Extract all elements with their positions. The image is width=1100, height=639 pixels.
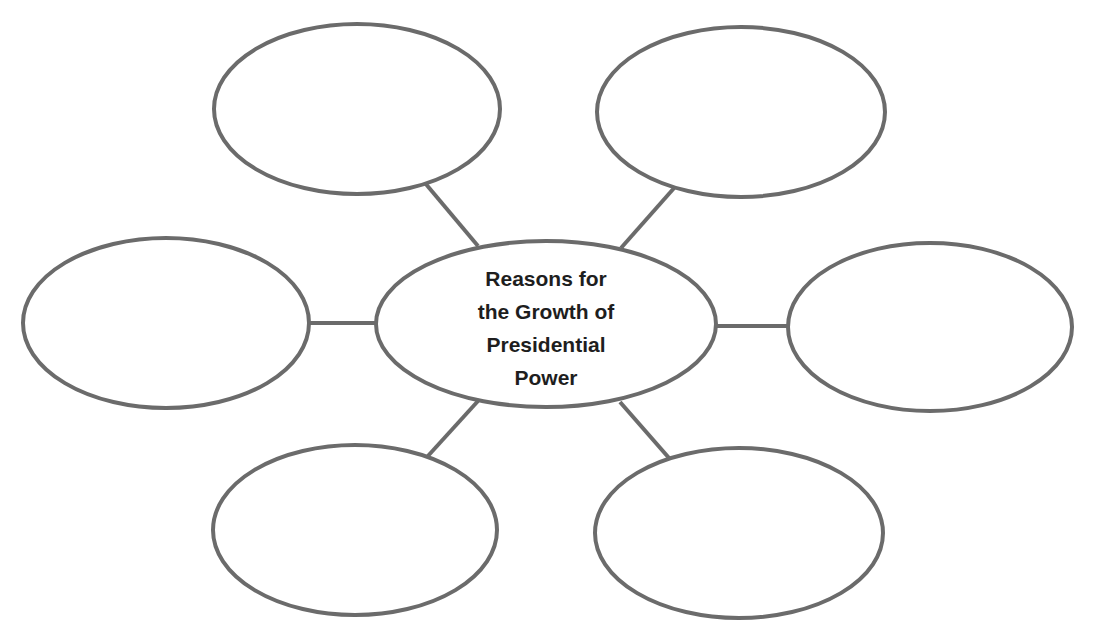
bubble-middle-left[interactable] [23,238,309,408]
bubble-top-left[interactable] [214,24,500,194]
bubble-bottom-left[interactable] [213,445,497,615]
connector-top-right [621,187,675,248]
connector-top-left [425,183,478,246]
center-label-line-3: Presidential [400,328,692,361]
center-label-line-2: the Growth of [400,295,692,328]
center-bubble-label: Reasons for the Growth of Presidential P… [400,262,692,394]
bubble-top-right[interactable] [597,27,885,197]
bubble-bottom-right[interactable] [595,448,883,618]
bubble-middle-right[interactable] [788,243,1072,411]
center-label-line-4: Power [400,361,692,394]
center-label-line-1: Reasons for [400,262,692,295]
connector-bottom-left [427,401,478,457]
connector-bottom-right [620,402,669,458]
